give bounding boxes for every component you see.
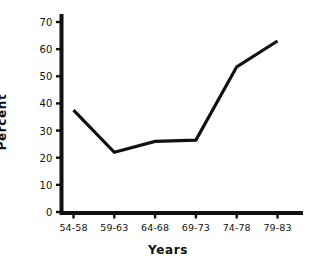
y-axis-title: Percent — [0, 94, 9, 151]
y-axis-tick-label: 10 — [40, 179, 53, 190]
x-axis-tick-label: 59-63 — [100, 222, 128, 233]
y-axis-tick-label: 30 — [40, 125, 53, 136]
x-axis-tick-label: 79-83 — [263, 222, 291, 233]
x-axis-title: Years — [148, 243, 188, 257]
x-axis-tick-label: 69-73 — [182, 222, 210, 233]
y-axis-tick-label: 50 — [40, 71, 53, 82]
y-axis-tick-label: 60 — [40, 44, 53, 55]
y-axis-tick-label: 70 — [40, 17, 53, 28]
chart-figure: 010203040506070 54-5859-6364-6869-7374-7… — [0, 0, 316, 269]
y-axis-tick-label: 0 — [46, 207, 52, 218]
x-axis-tick-label: 74-78 — [223, 222, 251, 233]
x-axis-tick-label: 54-58 — [59, 222, 87, 233]
y-axis-tick-label: 40 — [40, 98, 53, 109]
x-axis-tick-label: 64-68 — [141, 222, 169, 233]
y-axis-tick-label: 20 — [40, 152, 53, 163]
